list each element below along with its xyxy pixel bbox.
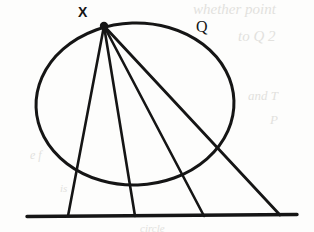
circle-q <box>33 20 237 189</box>
label-q: Q <box>196 18 208 36</box>
label-x: X <box>78 4 87 20</box>
ray-1 <box>68 26 104 216</box>
figure-canvas: whether point to Q 2 and T P e f is circ… <box>0 0 314 232</box>
geometry-drawing <box>0 0 314 232</box>
base-line <box>27 215 297 217</box>
vertex-point-x <box>100 22 108 30</box>
